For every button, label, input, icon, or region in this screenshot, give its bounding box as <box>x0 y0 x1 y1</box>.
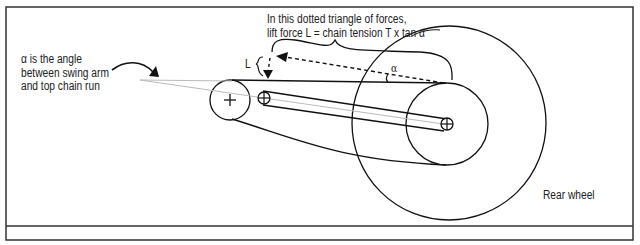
lift-arrowhead <box>263 70 273 79</box>
swing-arm-top <box>263 91 447 119</box>
top-chain-extension <box>140 80 232 81</box>
triangle-brace <box>272 39 452 80</box>
lift-label: L <box>245 57 251 71</box>
tension-arrowhead <box>276 52 288 62</box>
alpha-arc <box>387 74 389 82</box>
triangle-note-line1: In this dotted triangle of forces, <box>267 12 406 26</box>
diagram-border <box>6 7 633 240</box>
lift-brace <box>256 57 263 76</box>
tension-arrow-line <box>285 57 444 83</box>
triangle-note-line2: lift force L = chain tension T x tan α <box>267 26 425 40</box>
lift-arrow-line <box>268 58 270 72</box>
swing-arm-axis <box>140 80 450 125</box>
alpha-pointer-arrow <box>112 63 153 72</box>
alpha-note-line2: between swing arm <box>21 66 109 80</box>
alpha-note-line1: α is the angle <box>21 52 82 66</box>
angle-label: α <box>391 62 397 76</box>
top-chain-run <box>232 80 446 83</box>
rear-wheel-label: Rear wheel <box>543 188 595 202</box>
bottom-chain-run <box>232 119 446 165</box>
alpha-note-line3: and top chain run <box>21 79 100 93</box>
